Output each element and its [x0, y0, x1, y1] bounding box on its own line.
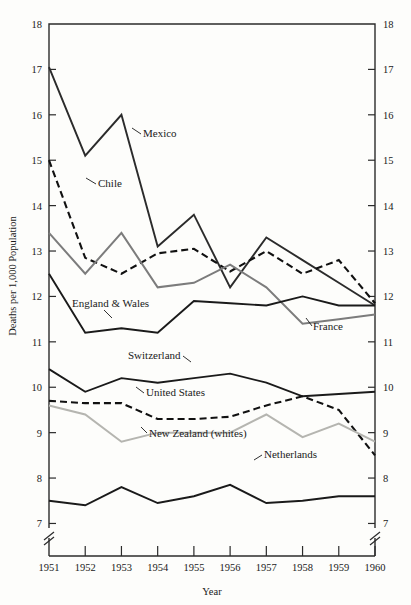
series-line-france — [49, 233, 375, 324]
series-line-switzerland — [49, 369, 375, 396]
figure-container: 7788991010111112121313141415151616171718… — [0, 0, 411, 605]
y-tick-label-right: 8 — [383, 473, 388, 484]
x-tick-label: 1952 — [75, 562, 96, 573]
annotation-layer: MexicoChileEngland & WalesFranceSwitzerl… — [72, 127, 343, 460]
leader-line-england-wales — [104, 310, 112, 318]
y-tick-label-left: 15 — [32, 155, 43, 166]
x-tick-label: 1954 — [147, 562, 169, 573]
series-label-france: France — [313, 320, 343, 332]
leader-line-chile — [86, 178, 96, 184]
x-tick-label: 1951 — [39, 562, 60, 573]
y-tick-label-left: 8 — [37, 473, 42, 484]
x-tick-label: 1959 — [328, 562, 349, 573]
y-tick-label-left: 9 — [37, 428, 42, 439]
y-tick-label-left: 7 — [37, 518, 42, 529]
y-tick-label-right: 11 — [383, 337, 393, 348]
y-tick-label-left: 14 — [32, 201, 43, 212]
y-tick-label-right: 17 — [383, 64, 394, 75]
series-label-netherlands: Netherlands — [264, 448, 317, 460]
leader-line-mexico — [132, 128, 141, 134]
y-tick-label-right: 18 — [383, 19, 394, 30]
line-chart: 7788991010111112121313141415151616171718… — [0, 0, 411, 605]
x-tick-label: 1957 — [256, 562, 277, 573]
series-layer — [49, 67, 375, 505]
y-tick-label-left: 10 — [32, 382, 43, 393]
series-label-switzerland: Switzerland — [128, 349, 181, 361]
y-tick-label-left: 13 — [32, 246, 43, 257]
y-tick-label-right: 12 — [383, 291, 394, 302]
series-label-mexico: Mexico — [143, 127, 177, 139]
leader-line-netherlands — [254, 455, 262, 460]
leader-line-new-zealand — [141, 427, 147, 433]
y-tick-label-right: 9 — [383, 428, 388, 439]
series-line-united-states — [49, 396, 375, 455]
series-line-netherlands — [49, 485, 375, 505]
y-tick-label-right: 7 — [383, 518, 388, 529]
series-label-england-wales: England & Wales — [72, 297, 149, 309]
y-tick-label-left: 11 — [32, 337, 42, 348]
leader-line-united-states — [136, 387, 144, 393]
x-axis-title: Year — [202, 586, 222, 597]
leader-line-switzerland — [183, 356, 191, 362]
x-tick-label: 1953 — [111, 562, 132, 573]
y-tick-label-left: 16 — [32, 110, 43, 121]
x-tick-label: 1955 — [183, 562, 204, 573]
series-label-chile: Chile — [98, 177, 122, 189]
y-axis-title: Deaths per 1,000 Population — [7, 215, 18, 335]
x-tick-label: 1958 — [292, 562, 313, 573]
y-tick-label-left: 17 — [32, 64, 43, 75]
y-tick-label-right: 14 — [383, 201, 394, 212]
series-label-new-zealand: New Zealand (whites) — [149, 427, 247, 440]
x-tick-label: 1956 — [220, 562, 241, 573]
y-tick-label-left: 12 — [32, 291, 43, 302]
series-label-united-states: United States — [146, 386, 205, 398]
y-tick-label-right: 16 — [383, 110, 394, 121]
y-tick-label-right: 10 — [383, 382, 394, 393]
axis-titles-layer: YearDeaths per 1,000 Population — [7, 215, 222, 597]
y-tick-label-left: 18 — [32, 19, 43, 30]
x-tick-label: 1960 — [365, 562, 386, 573]
y-tick-label-right: 13 — [383, 246, 394, 257]
y-tick-label-right: 15 — [383, 155, 394, 166]
